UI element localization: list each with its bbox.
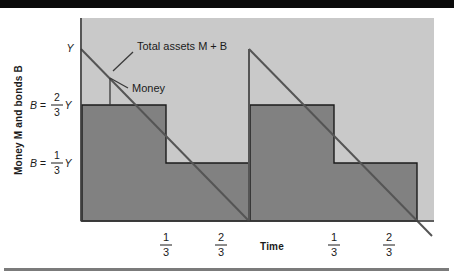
x-tick-numerator-1: 1 xyxy=(163,231,169,243)
y-axis-title: Money M and bonds B xyxy=(13,65,24,175)
x-tick-numerator-2: 2 xyxy=(218,231,224,243)
y-tick-denominator-2: 3 xyxy=(54,164,60,176)
chart-svg: Money M and bonds B Y B = 2 3 Y B = 1 3 … xyxy=(0,0,454,278)
x-tick-denominator-2: 3 xyxy=(218,246,224,258)
y-tick-label-two-thirds: B = 2 3 Y xyxy=(30,91,73,118)
x-tick-numerator-4: 2 xyxy=(386,231,392,243)
x-tick-denominator-4: 3 xyxy=(386,246,392,258)
figure-container: Money M and bonds B Y B = 2 3 Y B = 1 3 … xyxy=(0,0,454,278)
y-tick-suffix-1: Y xyxy=(64,99,72,111)
y-tick-denominator-1: 3 xyxy=(54,106,60,118)
x-axis-title: Time xyxy=(260,241,284,252)
y-tick-numerator-2: 1 xyxy=(54,149,60,161)
x-tick-label-4: 2 3 xyxy=(383,231,395,258)
annotation-total-assets: Total assets M + B xyxy=(137,40,227,52)
annotation-money: Money xyxy=(132,82,166,94)
x-tick-denominator-1: 3 xyxy=(163,246,169,258)
x-tick-label-1: 1 3 xyxy=(160,231,172,258)
y-tick-numerator-1: 2 xyxy=(54,91,60,103)
y-tick-prefix-2: B = xyxy=(30,157,46,169)
y-tick-prefix-1: B = xyxy=(30,99,46,111)
x-tick-denominator-3: 3 xyxy=(331,246,337,258)
y-top-label: Y xyxy=(66,42,74,54)
x-tick-label-3: 1 3 xyxy=(328,231,340,258)
y-tick-label-one-third: B = 1 3 Y xyxy=(30,149,73,176)
x-tick-numerator-3: 1 xyxy=(331,231,337,243)
bottom-horizontal-rule xyxy=(4,268,449,271)
y-tick-suffix-2: Y xyxy=(64,157,72,169)
x-tick-label-2: 2 3 xyxy=(215,231,227,258)
